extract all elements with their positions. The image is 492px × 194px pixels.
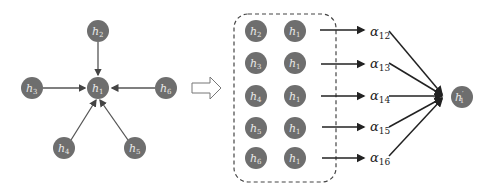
aggregation-arrows	[389, 31, 442, 156]
pair-row: h4 h1 α14	[245, 85, 391, 107]
node-h6: h6	[155, 77, 177, 99]
edge-h4-h1	[71, 100, 96, 140]
transform-arrow-icon	[192, 77, 221, 99]
svg-text:α13: α13	[370, 56, 391, 73]
node-h1-center: h1	[87, 77, 109, 99]
svg-text:h′1: h′1	[455, 90, 464, 105]
svg-text:α15: α15	[370, 119, 391, 136]
edge-h5-h1	[100, 100, 128, 140]
pair-row: h6 h1 α16	[245, 147, 391, 169]
output-node-h1-prime: h′1	[451, 86, 473, 108]
svg-text:α14: α14	[370, 88, 391, 105]
node-h5: h5	[124, 137, 146, 159]
attention-diagram: h2 h3 h1 h6 h4 h5 h2 h1 α12	[0, 0, 492, 194]
node-h2: h2	[87, 20, 109, 42]
pair-row: h5 h1 α15	[245, 117, 391, 139]
svg-text:α12: α12	[370, 24, 390, 41]
node-h4: h4	[53, 137, 75, 159]
pair-row: h3 h1 α13	[245, 52, 391, 74]
svg-text:α16: α16	[370, 150, 391, 167]
neighbor-graph: h2 h3 h1 h6 h4 h5	[21, 20, 177, 159]
node-h3: h3	[21, 77, 43, 99]
pair-row: h2 h1 α12	[245, 20, 390, 42]
